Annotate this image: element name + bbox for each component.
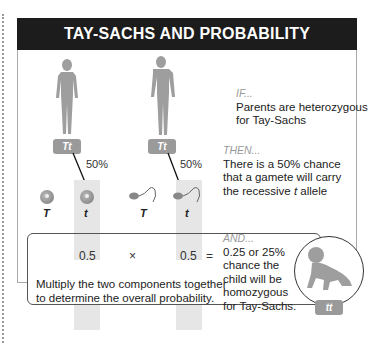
if-line: Parents are heterozygous [236, 101, 368, 115]
crawling-baby-icon [304, 246, 356, 290]
male-figure-icon [145, 55, 177, 137]
and-line: chance the [223, 259, 296, 273]
if-heading: IF... [236, 87, 368, 101]
and-line: child will be [223, 273, 296, 287]
child-genotype-badge: tt [315, 300, 343, 315]
then-heading: THEN... [223, 144, 341, 158]
if-block: IF... Parents are heterozygous for Tay-S… [236, 87, 368, 128]
and-heading: AND... [223, 232, 296, 246]
sperm-dominant-icon [128, 183, 162, 205]
instruction-text: Multiply the two components together to … [36, 278, 227, 305]
equals-sign: = [206, 249, 213, 263]
diagram-title: TAY-SACHS AND PROBABILITY [17, 18, 357, 50]
female-figure-icon [52, 58, 82, 136]
allele-label: T [140, 207, 147, 219]
probability-egg: 0.5 [79, 249, 96, 263]
then-block: THEN... There is a 50% chance that a gam… [223, 144, 341, 198]
then-line: There is a 50% chance [223, 158, 341, 172]
then-line: the recessive t allele [223, 185, 341, 199]
instruction-line: to determine the overall probability. [36, 292, 227, 306]
egg-dominant-icon [40, 190, 54, 204]
if-line: for Tay-Sachs [236, 114, 368, 128]
and-line: homozygous [223, 286, 296, 300]
then-line: that a gamete will carry [223, 171, 341, 185]
allele-label: T [43, 207, 50, 219]
probability-sperm: 0.5 [180, 249, 197, 263]
multiply-sign: × [129, 249, 136, 263]
and-block: AND... 0.25 or 25% chance the child will… [223, 232, 296, 313]
margin-dotted-line [2, 14, 4, 343]
egg-recessive-icon [80, 190, 94, 204]
and-line: for Tay-Sachs. [223, 300, 296, 314]
and-line: 0.25 or 25% [223, 246, 296, 260]
allele-label: t [185, 207, 189, 219]
instruction-line: Multiply the two components together [36, 278, 227, 292]
allele-label: t [84, 207, 88, 219]
sperm-recessive-icon [172, 183, 206, 205]
